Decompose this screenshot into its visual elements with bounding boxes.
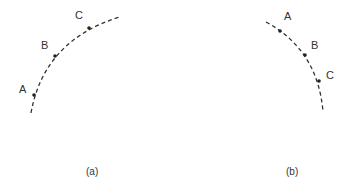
label-a-A: A <box>19 83 27 95</box>
point-a-A <box>32 93 36 97</box>
diagram-canvas: A B C (a) A B C (b) <box>0 0 348 186</box>
caption-a: (a) <box>86 166 98 177</box>
point-a-B <box>53 54 57 58</box>
point-b-B <box>303 53 307 57</box>
label-b-C: C <box>326 69 334 81</box>
label-b-A: A <box>284 10 292 22</box>
caption-b: (b) <box>286 166 298 177</box>
arc-curve-a <box>31 17 120 113</box>
panel-a: A B C (a) <box>19 9 120 177</box>
label-b-B: B <box>311 39 318 51</box>
point-b-C <box>317 79 321 83</box>
point-b-A <box>278 29 282 33</box>
label-a-C: C <box>75 9 83 21</box>
point-a-C <box>87 26 91 30</box>
label-a-B: B <box>41 39 48 51</box>
panel-b: A B C (b) <box>266 10 334 177</box>
arc-curve-b <box>266 22 323 112</box>
